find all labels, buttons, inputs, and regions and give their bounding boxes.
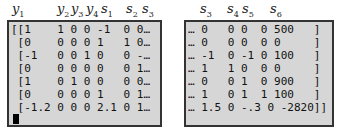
calculator-screen-left: [[1 1 0 0 -1 0 0… [0 0 0 0 1 1 0… [-1 0 …: [7, 20, 162, 127]
header-s3-right: s3: [200, 1, 212, 19]
matrix-row: [0 0 0 0 0 0 1…: [11, 63, 150, 75]
matrix-row: [0 0 0 0 1 0 1…: [11, 89, 150, 101]
matrix-row: … 0 0 0 0 0 ]: [188, 37, 320, 49]
header-s5: s5: [242, 1, 254, 19]
header-y3: y3: [71, 1, 83, 19]
matrix-row: [[1 1 0 0 -1 0 0…: [11, 24, 150, 36]
matrix-row: … 1 0 1 1 100 ]: [188, 89, 320, 101]
matrix-row: … -1 0 -1 0 100 ]: [188, 50, 320, 62]
header-s1: s1: [101, 1, 113, 19]
matrix-row: … 1 1 0 0 0 ]: [188, 63, 320, 75]
header-s6: s6: [270, 1, 282, 19]
header-s4: s4: [227, 1, 239, 19]
matrix-row: [0 0 0 0 1 1 0…: [11, 37, 150, 49]
header-s3: s3: [142, 1, 154, 19]
matrix-row: [-1.2 0 0 0 2.1 0 1…: [11, 102, 150, 114]
matrix-row: [-1 0 0 1 0 0 -…: [11, 50, 150, 62]
header-y1: y1: [12, 1, 24, 19]
calculator-screen-right: … 0 0 0 0 500 ] … 0 0 0 0 0 ] … -1 0 -1 …: [184, 20, 334, 127]
matrix-row: … 0 0 0 0 500 ]: [188, 24, 320, 36]
cursor-block: [13, 114, 19, 124]
header-y4: y4: [86, 1, 98, 19]
matrix-row: … 0 0 1 0 900 ]: [188, 76, 320, 88]
header-y2: y2: [57, 1, 69, 19]
header-s2: s2: [126, 1, 138, 19]
matrix-row: [1 0 1 0 0 0 0…: [11, 76, 150, 88]
matrix-row: … 1.5 0 -.3 0 -2820]]: [188, 102, 327, 114]
